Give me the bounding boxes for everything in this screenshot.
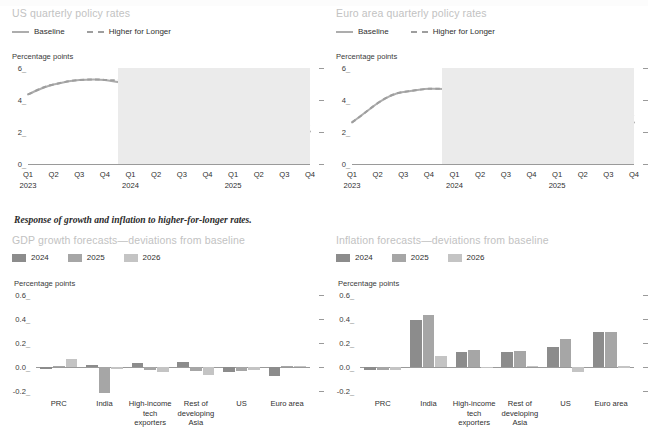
bar-2024-2[interactable] [132,363,144,367]
legend-us: Baseline Higher for Longer [12,27,171,36]
bar-2025-1[interactable] [99,367,111,393]
xtick-label: Q2 [49,170,59,179]
bar-2026-5[interactable] [618,366,630,367]
xtick-label: Q3 [603,170,613,179]
bar-2024-2[interactable] [456,352,468,367]
chart-title-gdp: GDP growth forecasts—deviations from bas… [12,234,245,246]
bar-2025-4[interactable] [236,367,248,371]
xtick-label: Q4 [629,170,639,179]
higher-line-swatch-icon [411,31,428,33]
bar-2026-2[interactable] [157,367,169,372]
legend-item-year-2024[interactable]: 2024 [12,253,49,262]
xtick-label: Q2 [578,170,588,179]
xtick-label: Q3 [398,170,408,179]
ytick-inf-0.6: 0.6 ̲ [326,291,352,300]
right-tick-euro-2 [643,132,648,133]
xtick-label: Q4 [424,170,434,179]
ytick-us-4: 4 ̲ [6,96,24,105]
bar-2026-5[interactable] [294,366,306,367]
legend-item-higher-for-longer-euro[interactable]: Higher for Longer [411,27,495,36]
legend-label-baseline-euro: Baseline [358,27,389,36]
xtick-label: Q3 [177,170,187,179]
legend-item-baseline[interactable]: Baseline [12,27,65,36]
legend-label: 2024 [31,253,49,262]
bar-2026-0[interactable] [390,367,402,370]
ytick-gdp-0.4: 0.4 ̲ [2,315,28,324]
bar-2025-2[interactable] [468,350,480,367]
bar-2025-4[interactable] [560,339,572,367]
bar-2025-2[interactable] [144,367,156,370]
right-tick-euro-4 [643,100,648,101]
ytick-inf--0.2: -0.2 ̲ [324,387,352,396]
higher-line-swatch-icon [87,31,104,33]
bar-2024-4[interactable] [223,367,235,372]
xaxis-year-label: 2025 [549,181,566,190]
legend-euro: Baseline Higher for Longer [336,27,495,36]
bar-2024-4[interactable] [547,347,559,367]
bar-2025-3[interactable] [190,367,202,371]
xaxis-year-label: 2023 [20,181,37,190]
xaxis-year-label: 2025 [225,181,242,190]
bar-2024-3[interactable] [501,352,513,367]
bar-2025-0[interactable] [377,367,389,370]
chart-title-us: US quarterly policy rates [12,7,130,19]
ytick-inf-0.2: 0.2 ̲ [326,339,352,348]
legend-item-year-2025[interactable]: 2025 [392,253,429,262]
bar-2024-5[interactable] [269,367,281,376]
ytick-euro-2: 2 ̲ [330,128,348,137]
bar-2026-2[interactable] [481,367,493,368]
xtick-label: Q4 [100,170,110,179]
legend-item-year-2026[interactable]: 2026 [448,253,485,262]
forecast-shading-euro [442,68,634,164]
xtick-label: Q2 [151,170,161,179]
bar-2024-3[interactable] [177,362,189,367]
panel-euro-policy-rates: Euro area quarterly policy rates Baselin… [324,0,648,200]
bar-2026-1[interactable] [111,367,123,369]
bar-2024-0[interactable] [364,367,376,370]
bar-2026-0[interactable] [66,359,78,367]
bar-2024-5[interactable] [593,332,605,367]
bar-2025-5[interactable] [605,332,617,367]
legend-item-baseline-euro[interactable]: Baseline [336,27,389,36]
baseline-line-swatch-icon [336,31,353,33]
legend-color-chip-icon [68,254,82,262]
ytick-euro-6: 6 ̲ [330,64,348,73]
xaxis-year-label: 2024 [446,181,463,190]
bar-2026-3[interactable] [203,367,215,375]
xtick-label: Q1 [125,170,135,179]
category-label: Euro area [256,399,318,409]
bar-2026-4[interactable] [248,367,260,370]
bar-2026-1[interactable] [435,356,447,367]
forecast-shading-us [118,68,310,164]
right-tick-inf-0.0 [643,367,648,368]
bar-2026-3[interactable] [527,366,539,367]
right-tick-euro-6 [643,68,648,69]
bar-2024-0[interactable] [40,367,52,369]
xaxis-year-label: 2024 [122,181,139,190]
bar-2024-1[interactable] [86,365,98,367]
chart-title-euro: Euro area quarterly policy rates [336,7,487,19]
bar-2025-5[interactable] [281,366,293,367]
bar-2026-4[interactable] [572,367,584,372]
bar-2025-3[interactable] [514,351,526,367]
legend-label: 2025 [411,253,429,262]
plot-area-gdp [36,295,310,391]
ytick-us-0: 0 ̲ [6,160,24,169]
legend-item-year-2026[interactable]: 2026 [124,253,161,262]
legend-label-higher: Higher for Longer [109,27,171,36]
ytick-gdp-0.0: 0.0 ̲ [2,363,28,372]
bar-2024-1[interactable] [410,320,422,367]
legend-item-higher-for-longer[interactable]: Higher for Longer [87,27,171,36]
xtick-label: Q2 [373,170,383,179]
chart-title-inflation: Inflation forecasts—deviations from base… [336,234,549,246]
ytick-us-2: 2 ̲ [6,128,24,137]
legend-item-year-2025[interactable]: 2025 [68,253,105,262]
bar-2025-0[interactable] [53,366,65,367]
legend-item-year-2024[interactable]: 2024 [336,253,373,262]
right-tick-inf-0.6 [643,295,648,296]
bar-2025-1[interactable] [423,315,435,367]
xtick-label: Q1 [23,170,33,179]
right-tick-inf-0.4 [643,319,648,320]
legend-label: 2024 [355,253,373,262]
plot-area-euro [352,68,634,164]
